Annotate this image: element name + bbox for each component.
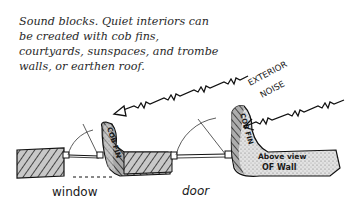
window-label: window — [52, 185, 98, 199]
noise-arrow-lower — [244, 100, 344, 130]
middle-wall-segment — [124, 152, 172, 174]
window-post-right — [97, 152, 103, 158]
window-swing-arc — [68, 130, 93, 155]
door-post-left — [171, 152, 177, 159]
noise-label: NOISE — [258, 79, 286, 100]
cob-fin-right: COB FIN Above view OF Wall — [231, 106, 340, 177]
door-swing-arc — [176, 118, 216, 155]
door-post-right — [225, 151, 232, 158]
wall-plan-drawing: COB FIN COB FIN Above view OF Wall EXTER… — [0, 0, 359, 213]
door-label: door — [182, 184, 210, 198]
window-glass — [69, 155, 99, 156]
of-wall-label: OF Wall — [262, 163, 297, 172]
left-wall-segment — [17, 148, 64, 178]
noise-arrow-upper — [114, 76, 248, 116]
door-leaf — [177, 154, 226, 155]
above-view-label: Above view — [258, 152, 306, 161]
